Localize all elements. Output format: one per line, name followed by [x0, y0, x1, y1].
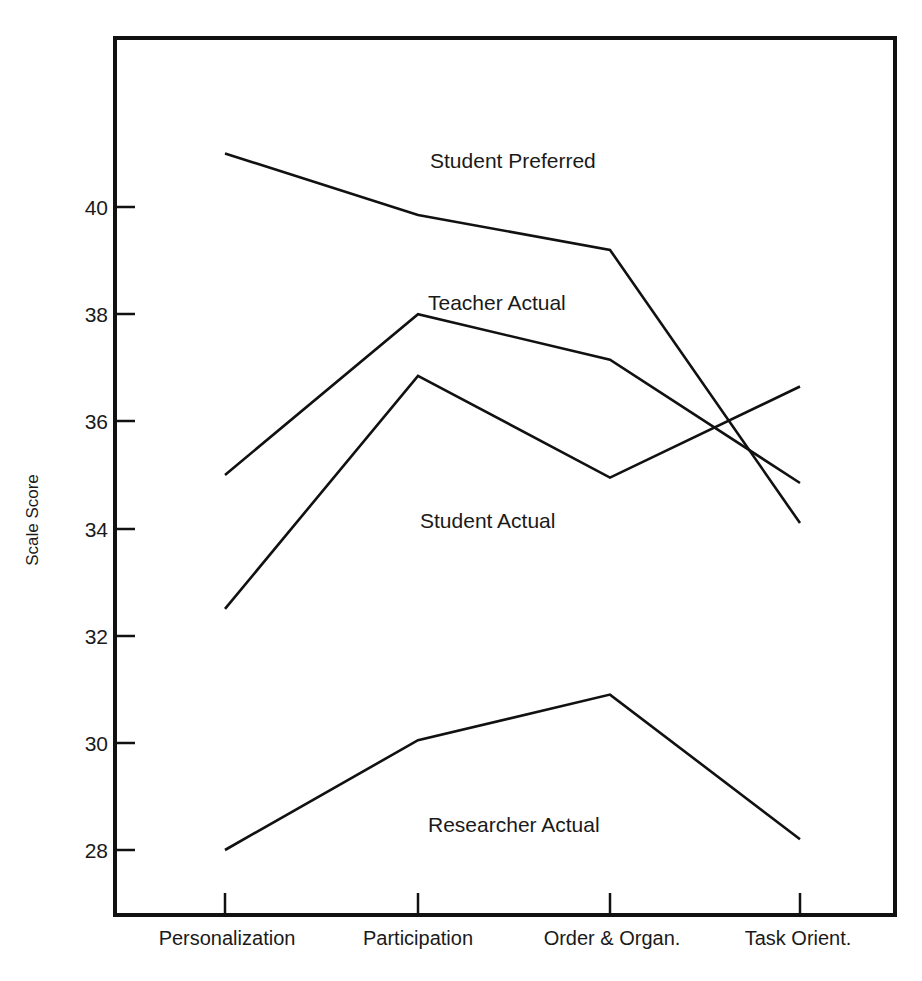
y-axis-tick-labels: 40 38 36 34 32 30 28	[85, 196, 109, 862]
x-axis-ticks	[225, 893, 800, 913]
series-label-student-actual: Student Actual	[420, 509, 555, 532]
series-label-teacher-actual: Teacher Actual	[428, 291, 566, 314]
series-label-student-preferred: Student Preferred	[430, 149, 596, 172]
series-label-researcher-actual: Researcher Actual	[428, 813, 600, 836]
series-lines	[225, 153, 800, 850]
chart-page: 40 38 36 34 32 30 28 Personalization Par…	[0, 0, 922, 981]
y-tick-label-32: 32	[85, 625, 108, 648]
y-tick-label-28: 28	[85, 839, 108, 862]
y-tick-label-38: 38	[85, 303, 108, 326]
series-line-student-preferred	[225, 153, 800, 523]
series-line-student-actual	[225, 376, 800, 609]
x-label-task-orient: Task Orient.	[745, 927, 852, 949]
x-label-participation: Participation	[363, 927, 473, 949]
x-label-order-organ: Order & Organ.	[544, 927, 681, 949]
y-tick-label-30: 30	[85, 732, 108, 755]
y-axis-title: Scale Score	[23, 474, 42, 566]
line-chart: 40 38 36 34 32 30 28 Personalization Par…	[0, 0, 922, 981]
y-axis-ticks	[117, 207, 135, 850]
x-label-personalization: Personalization	[159, 927, 296, 949]
y-tick-label-36: 36	[85, 410, 108, 433]
y-tick-label-40: 40	[85, 196, 108, 219]
x-axis-category-labels: Personalization Participation Order & Or…	[159, 927, 852, 949]
y-tick-label-34: 34	[85, 518, 109, 541]
